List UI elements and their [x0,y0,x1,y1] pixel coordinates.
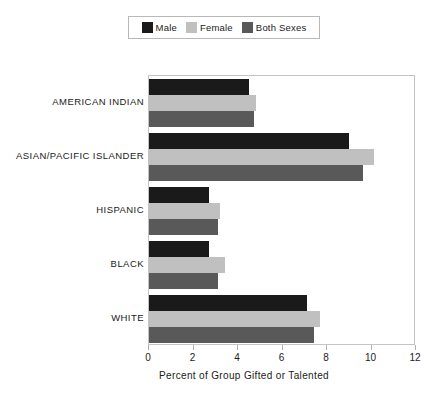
bar-group [149,295,414,343]
x-axis-tick-mark [148,345,149,350]
legend-label-male: Male [156,23,177,33]
legend-label-both-sexes: Both Sexes [256,23,307,33]
bar [149,219,218,235]
bar [149,187,209,203]
x-axis-tick-mark [415,345,416,350]
legend-entry-male: Male [142,22,177,33]
x-axis-tick-label: 6 [279,353,285,363]
bar-group [149,241,414,289]
x-axis-title: Percent of Group Gifted or Talented [0,371,446,381]
legend-swatch-male [142,22,153,33]
legend-entry-both-sexes: Both Sexes [242,22,307,33]
bar [149,79,249,95]
chart-legend: Male Female Both Sexes [128,16,320,39]
x-axis-tick-label: 10 [365,353,376,363]
bar [149,95,256,111]
y-axis-label: BLACK [111,259,144,269]
y-axis-label: WHITE [111,313,144,323]
x-axis-tick-label: 4 [234,353,240,363]
bar [149,149,374,165]
bar-group [149,187,414,235]
x-axis-title-text: Percent of Group Gifted or Talented [159,371,329,381]
bar [149,133,349,149]
x-axis-tick-mark [282,345,283,350]
x-axis-tick-mark [193,345,194,350]
bar [149,203,220,219]
legend-entry-female: Female [186,22,233,33]
x-axis-tick-mark [326,345,327,350]
x-axis-tick-label: 2 [190,353,196,363]
plot-area [148,75,415,345]
bars-container [149,76,414,344]
bar-group [149,79,414,127]
bar [149,273,218,289]
x-axis-tick-label: 0 [145,353,151,363]
bar [149,241,209,257]
bar-group [149,133,414,181]
legend-swatch-female [186,22,197,33]
bar [149,311,320,327]
bar [149,111,254,127]
bar [149,257,225,273]
legend-label-female: Female [200,23,233,33]
x-axis-tick-mark [237,345,238,350]
x-axis-tick-mark [371,345,372,350]
bar [149,295,307,311]
y-axis-label: ASIAN/PACIFIC ISLANDER [16,151,144,161]
x-axis-tick-label: 8 [323,353,329,363]
bar [149,327,314,343]
bar [149,165,363,181]
y-axis-label: HISPANIC [96,205,144,215]
y-axis-label: AMERICAN INDIAN [52,97,144,107]
x-axis-tick-label: 12 [409,353,420,363]
legend-swatch-both-sexes [242,22,253,33]
